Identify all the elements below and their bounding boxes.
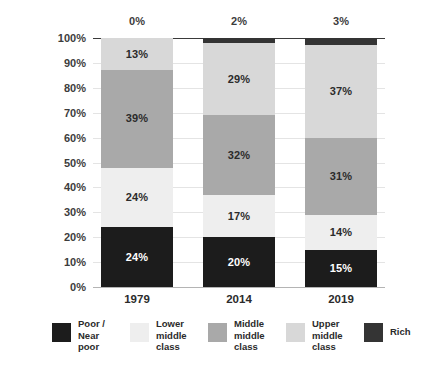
legend-label: Middle middle class bbox=[234, 318, 265, 353]
x-tick-2014: 2014 bbox=[203, 294, 275, 306]
legend-item-upper-middle-class[interactable]: Upper middle class bbox=[286, 318, 343, 353]
y-tick-100: 100% bbox=[38, 33, 86, 44]
legend-label: Rich bbox=[390, 326, 411, 338]
segment-poor-near-poor-2019[interactable]: 15% bbox=[305, 250, 377, 287]
legend-swatch-poor-near-poor-icon bbox=[52, 323, 71, 342]
x-tick-1979: 1979 bbox=[101, 294, 173, 306]
legend-label: Lower middle class bbox=[156, 318, 187, 353]
stacked-bar-chart: 100% 90% 80% 70% 60% 50% 40% 30% 20% 10%… bbox=[0, 0, 431, 371]
legend-item-lower-middle-class[interactable]: Lower middle class bbox=[130, 318, 187, 353]
segment-label: 29% bbox=[228, 74, 250, 85]
legend-swatch-upper-middle-class-icon bbox=[286, 323, 305, 342]
bar-column-1979[interactable]: 0% 13% 39% 24% 24% bbox=[101, 38, 173, 287]
y-tick-60: 60% bbox=[38, 132, 86, 143]
y-axis: 100% 90% 80% 70% 60% 50% 40% 30% 20% 10%… bbox=[0, 38, 86, 287]
y-tick-90: 90% bbox=[38, 57, 86, 68]
y-tick-80: 80% bbox=[38, 82, 86, 93]
legend-swatch-rich-icon bbox=[364, 323, 383, 342]
y-tick-50: 50% bbox=[38, 157, 86, 168]
y-tick-30: 30% bbox=[38, 207, 86, 218]
bar-column-2014[interactable]: 2% 29% 32% 17% 20% bbox=[203, 38, 275, 287]
segment-lower-middle-1979[interactable]: 24% bbox=[101, 168, 173, 228]
segment-lower-middle-2019[interactable]: 14% bbox=[305, 215, 377, 250]
legend-swatch-middle-middle-class-icon bbox=[208, 323, 227, 342]
segment-poor-near-poor-2014[interactable]: 20% bbox=[203, 237, 275, 287]
chart-legend: Poor / Near poor Lower middle class Midd… bbox=[52, 318, 392, 364]
segment-label: 20% bbox=[228, 257, 250, 268]
y-tick-70: 70% bbox=[38, 107, 86, 118]
y-tick-0: 0% bbox=[38, 282, 86, 293]
segment-middle-middle-1979[interactable]: 39% bbox=[101, 70, 173, 167]
segment-label: 17% bbox=[228, 211, 250, 222]
y-tick-10: 10% bbox=[38, 257, 86, 268]
segment-label: 24% bbox=[126, 252, 148, 263]
segment-label: 31% bbox=[330, 171, 352, 182]
plot-area: 0% 13% 39% 24% 24% 2% 29% 32% bbox=[93, 38, 385, 287]
segment-label: 32% bbox=[228, 150, 250, 161]
legend-swatch-lower-middle-class-icon bbox=[130, 323, 149, 342]
segment-poor-near-poor-1979[interactable]: 24% bbox=[101, 227, 173, 287]
segment-upper-middle-2019[interactable]: 37% bbox=[305, 45, 377, 137]
segment-label: 37% bbox=[330, 86, 352, 97]
segment-label: 13% bbox=[126, 49, 148, 60]
segment-label: 15% bbox=[330, 263, 352, 274]
legend-item-middle-middle-class[interactable]: Middle middle class bbox=[208, 318, 265, 353]
segment-middle-middle-2014[interactable]: 32% bbox=[203, 115, 275, 195]
rich-value-label-2014: 2% bbox=[203, 16, 275, 27]
x-tick-2019: 2019 bbox=[305, 294, 377, 306]
segment-rich-2019[interactable] bbox=[305, 38, 377, 45]
segment-label: 24% bbox=[126, 192, 148, 203]
bar-column-2019[interactable]: 3% 37% 31% 14% 15% bbox=[305, 38, 377, 287]
segment-label: 39% bbox=[126, 113, 148, 124]
legend-item-poor-near-poor[interactable]: Poor / Near poor bbox=[52, 318, 105, 353]
segment-middle-middle-2019[interactable]: 31% bbox=[305, 138, 377, 215]
legend-label: Upper middle class bbox=[312, 318, 343, 353]
legend-label: Poor / Near poor bbox=[78, 318, 105, 353]
segment-upper-middle-2014[interactable]: 29% bbox=[203, 43, 275, 115]
y-tick-40: 40% bbox=[38, 182, 86, 193]
rich-value-label-2019: 3% bbox=[305, 16, 377, 27]
segment-label: 14% bbox=[330, 227, 352, 238]
y-tick-20: 20% bbox=[38, 232, 86, 243]
segment-lower-middle-2014[interactable]: 17% bbox=[203, 195, 275, 237]
segment-upper-middle-1979[interactable]: 13% bbox=[101, 38, 173, 70]
rich-value-label-1979: 0% bbox=[101, 16, 173, 27]
gridline-0-baseline bbox=[93, 287, 385, 288]
legend-item-rich[interactable]: Rich bbox=[364, 318, 411, 342]
